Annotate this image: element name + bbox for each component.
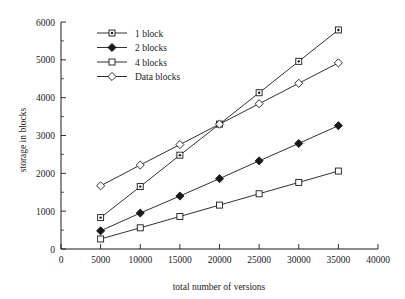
data-point xyxy=(256,90,262,96)
x-axis-title: total number of versions xyxy=(173,282,266,292)
data-point xyxy=(335,27,341,33)
data-point xyxy=(177,213,183,219)
data-point xyxy=(98,236,104,242)
y-tick-label: 1000 xyxy=(36,207,55,217)
x-tick-label: 15000 xyxy=(168,255,192,265)
x-tick-label: 10000 xyxy=(128,255,152,265)
y-tick-label: 0 xyxy=(50,245,55,255)
y-tick-label: 3000 xyxy=(36,131,55,141)
legend-label: Data blocks xyxy=(135,72,180,82)
x-tick-label: 0 xyxy=(59,255,64,265)
data-point xyxy=(335,168,341,174)
y-tick-label: 4000 xyxy=(36,93,55,103)
legend-label: 1 block xyxy=(135,29,163,39)
data-point xyxy=(256,191,262,197)
x-axis-tick-labels: 0500010000150002000025000300003500040000 xyxy=(59,255,391,265)
data-point xyxy=(137,184,143,190)
data-point xyxy=(137,225,143,231)
y-tick-label: 6000 xyxy=(36,18,55,28)
y-tick-label: 2000 xyxy=(36,169,55,179)
chart-figure: 0500010000150002000025000300003500040000… xyxy=(0,0,405,299)
y-axis-title: storage in blocks xyxy=(18,108,28,173)
legend-marker xyxy=(109,59,115,65)
x-tick-label: 25000 xyxy=(247,255,271,265)
x-tick-label: 5000 xyxy=(91,255,110,265)
legend-label: 2 blocks xyxy=(135,43,167,53)
y-tick-label: 5000 xyxy=(36,55,55,65)
legend-marker xyxy=(109,30,115,36)
legend-label: 4 blocks xyxy=(135,58,167,68)
data-point xyxy=(98,215,104,221)
x-tick-label: 40000 xyxy=(366,255,390,265)
data-point xyxy=(296,58,302,64)
x-tick-label: 20000 xyxy=(208,255,232,265)
x-tick-label: 30000 xyxy=(287,255,311,265)
line-chart: 0500010000150002000025000300003500040000… xyxy=(0,0,405,299)
data-point xyxy=(177,152,183,158)
data-point xyxy=(296,179,302,185)
data-point xyxy=(217,202,223,208)
x-tick-label: 35000 xyxy=(327,255,351,265)
